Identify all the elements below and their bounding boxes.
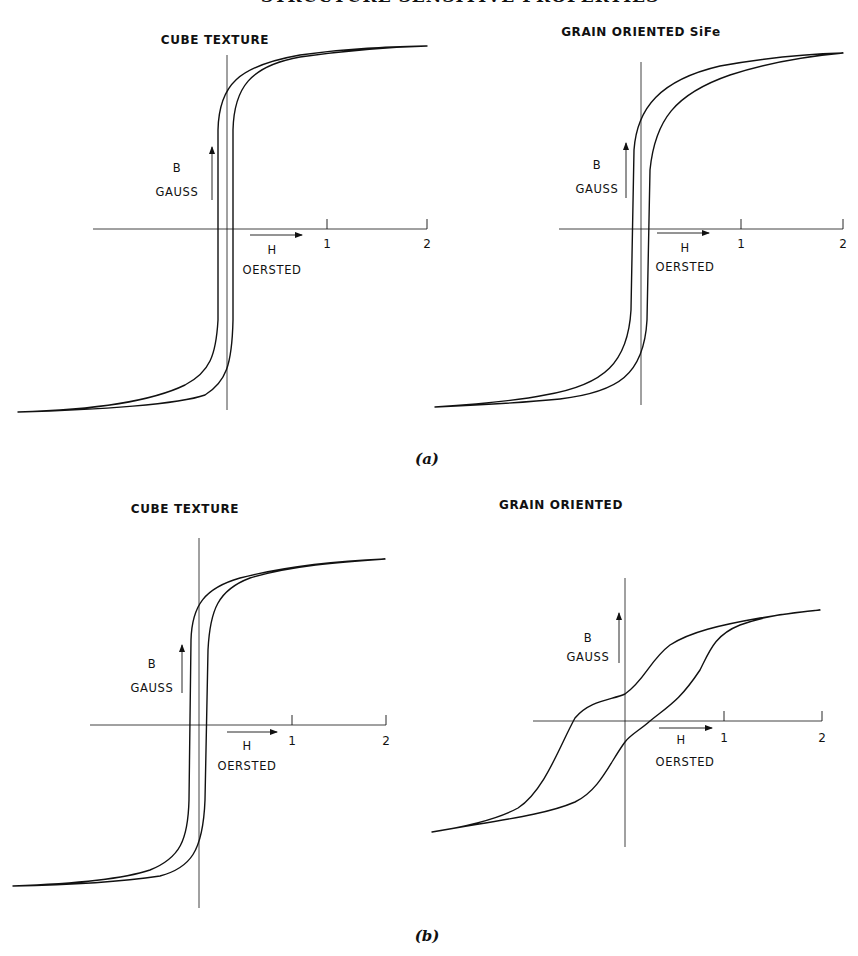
tick-label: 2 — [818, 731, 826, 745]
tick-label: 1 — [737, 237, 745, 251]
tick-label: 1 — [288, 734, 296, 748]
y-axis-label-symbol: B — [173, 161, 182, 175]
y-axis-label-unit: GAUSS — [567, 650, 610, 664]
chart-title: GRAIN ORIENTED SiFe — [561, 25, 721, 39]
y-axis-label-symbol: B — [148, 657, 157, 671]
chart-title: CUBE TEXTURE — [131, 502, 239, 516]
x-axis-label-unit: OERSTED — [218, 759, 277, 773]
hysteresis-chart-1: 12CUBE TEXTUREBGAUSSHOERSTED — [18, 33, 431, 412]
y-axis-label-symbol: B — [593, 158, 602, 172]
x-axis-label-unit: OERSTED — [656, 260, 715, 274]
tick-label: 2 — [382, 734, 390, 748]
x-axis-label-symbol: H — [267, 243, 276, 257]
figure-caption-b: (b) — [415, 927, 440, 945]
tick-label: 2 — [839, 237, 847, 251]
hysteresis-chart-2: 12GRAIN ORIENTED SiFeBGAUSSHOERSTED — [435, 25, 847, 407]
tick-label: 1 — [720, 731, 728, 745]
x-axis-label-symbol: H — [676, 733, 685, 747]
chart-title: CUBE TEXTURE — [161, 33, 269, 47]
hysteresis-loop — [435, 53, 843, 407]
y-axis-label-unit: GAUSS — [156, 185, 199, 199]
hysteresis-figure: 12CUBE TEXTUREBGAUSSHOERSTED12GRAIN ORIE… — [0, 0, 858, 956]
chart-title: GRAIN ORIENTED — [499, 498, 623, 512]
tick-label: 2 — [423, 237, 431, 251]
x-axis-label-unit: OERSTED — [656, 755, 715, 769]
hysteresis-chart-4: 12GRAIN ORIENTEDBGAUSSHOERSTED — [432, 498, 826, 847]
y-axis-label-unit: GAUSS — [131, 681, 174, 695]
x-axis-label-symbol: H — [680, 241, 689, 255]
y-axis-label-symbol: B — [584, 631, 593, 645]
hysteresis-chart-3: 12CUBE TEXTUREBGAUSSHOERSTED — [13, 502, 390, 908]
figure-caption-a: (a) — [415, 450, 439, 468]
x-axis-label-unit: OERSTED — [243, 263, 302, 277]
x-axis-label-symbol: H — [242, 739, 251, 753]
tick-label: 1 — [323, 237, 331, 251]
y-axis-label-unit: GAUSS — [576, 182, 619, 196]
